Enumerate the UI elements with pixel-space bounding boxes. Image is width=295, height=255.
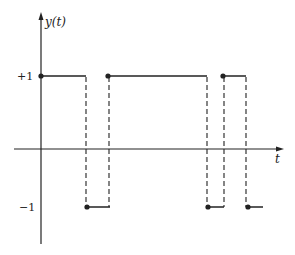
waveform-solid-segments xyxy=(41,76,263,207)
segment-start-dot xyxy=(205,204,210,209)
segment-start-dot xyxy=(245,204,250,209)
waveform-start-dots xyxy=(38,73,250,209)
segment-start-dot xyxy=(38,73,43,78)
y-axis-arrow-icon xyxy=(39,12,44,20)
segment-start-dot xyxy=(220,73,225,78)
telegraph-signal-diagram: y(t) t +1 −1 xyxy=(0,0,295,255)
level-low-label: −1 xyxy=(19,201,35,214)
x-axis-arrow-icon xyxy=(276,147,284,152)
waveform-dashed-transitions xyxy=(86,77,246,207)
segment-start-dot xyxy=(84,204,89,209)
y-axis-label: y(t) xyxy=(44,15,66,29)
level-high-label: +1 xyxy=(17,70,33,83)
segment-start-dot xyxy=(105,73,110,78)
x-axis-label: t xyxy=(275,152,280,166)
axes xyxy=(14,12,284,244)
